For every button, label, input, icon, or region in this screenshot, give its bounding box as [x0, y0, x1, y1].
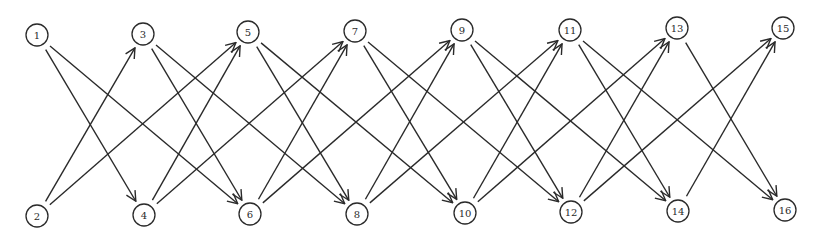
edge-4-to-5 — [152, 46, 240, 200]
node-1: 1 — [26, 24, 48, 46]
node-12: 12 — [560, 201, 582, 223]
node-11: 11 — [559, 19, 581, 41]
edge-8-to-9 — [365, 44, 454, 199]
node-label: 13 — [671, 23, 684, 34]
node-label: 6 — [247, 209, 253, 220]
node-label: 1 — [34, 30, 40, 41]
node-label: 10 — [459, 208, 472, 219]
edge-6-to-9 — [263, 40, 450, 202]
node-label: 14 — [672, 206, 685, 217]
node-label: 5 — [245, 27, 251, 38]
node-label: 2 — [34, 211, 40, 222]
node-4: 4 — [133, 204, 155, 226]
node-label: 16 — [779, 205, 792, 216]
edge-11-to-16 — [583, 41, 773, 200]
node-10: 10 — [454, 202, 476, 224]
edge-12-to-15 — [584, 38, 771, 200]
node-label: 8 — [354, 209, 360, 220]
node-9: 9 — [451, 19, 473, 41]
node-label: 9 — [459, 25, 465, 36]
node-16: 16 — [774, 199, 796, 221]
node-15: 15 — [772, 17, 794, 39]
node-13: 13 — [666, 17, 688, 39]
node-6: 6 — [239, 203, 261, 225]
node-label: 15 — [777, 23, 790, 34]
node-2: 2 — [26, 205, 48, 227]
node-8: 8 — [346, 203, 368, 225]
node-label: 3 — [140, 29, 146, 40]
node-14: 14 — [667, 200, 689, 222]
directed-graph-canvas: 12345678910111213141516 — [0, 0, 817, 245]
node-5: 5 — [237, 21, 259, 43]
node-7: 7 — [344, 20, 366, 42]
edge-2-to-5 — [50, 43, 236, 205]
node-label: 11 — [564, 25, 577, 36]
edge-8-to-11 — [370, 40, 558, 202]
node-label: 7 — [352, 26, 358, 37]
node-3: 3 — [132, 23, 154, 45]
edge-layer — [46, 38, 777, 204]
edge-7-to-10 — [364, 46, 457, 200]
node-label: 12 — [565, 207, 578, 218]
node-label: 4 — [141, 210, 147, 221]
